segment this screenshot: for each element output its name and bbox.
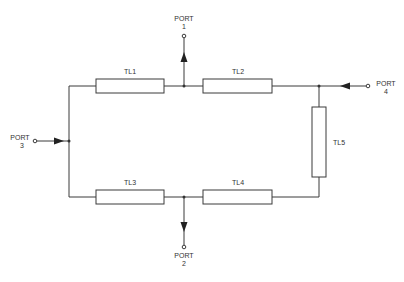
port4-arrow-icon: [340, 83, 350, 90]
tl5-label: TL5: [333, 139, 345, 146]
tl5-element[interactable]: [312, 107, 326, 177]
port1-terminal[interactable]: [182, 34, 186, 38]
port4-label: PORT: [376, 80, 396, 87]
port3-arrow-icon: [54, 138, 64, 145]
port1-arrow-icon: [181, 52, 188, 62]
tl3-element[interactable]: [96, 190, 164, 204]
tl3-label: TL3: [124, 179, 136, 186]
port2-number: 2: [182, 260, 186, 267]
port3-label: PORT: [10, 134, 30, 141]
port2-label: PORT: [174, 252, 194, 259]
port2-arrow-icon: [181, 222, 188, 232]
port2-terminal[interactable]: [182, 245, 186, 249]
schematic-canvas: TL1 TL2 TL3 TL4 TL5 PORT 1 PORT 2 PORT 3…: [0, 0, 404, 282]
port3-number: 3: [20, 142, 24, 149]
tl4-label: TL4: [232, 179, 244, 186]
port1-number: 1: [182, 23, 186, 30]
tl2-element[interactable]: [203, 79, 272, 93]
tl4-element[interactable]: [203, 190, 272, 204]
port3-terminal[interactable]: [33, 139, 37, 143]
port4-terminal[interactable]: [366, 84, 370, 88]
port1-label: PORT: [174, 15, 194, 22]
tl1-element[interactable]: [96, 79, 164, 93]
port4-number: 4: [384, 88, 388, 95]
tl2-label: TL2: [232, 68, 244, 75]
tl1-label: TL1: [124, 68, 136, 75]
junction-dots: [68, 85, 321, 199]
